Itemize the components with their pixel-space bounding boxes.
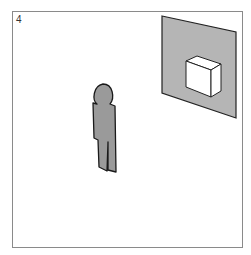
scene-illustration bbox=[0, 0, 251, 255]
person-figure-icon bbox=[93, 84, 116, 172]
